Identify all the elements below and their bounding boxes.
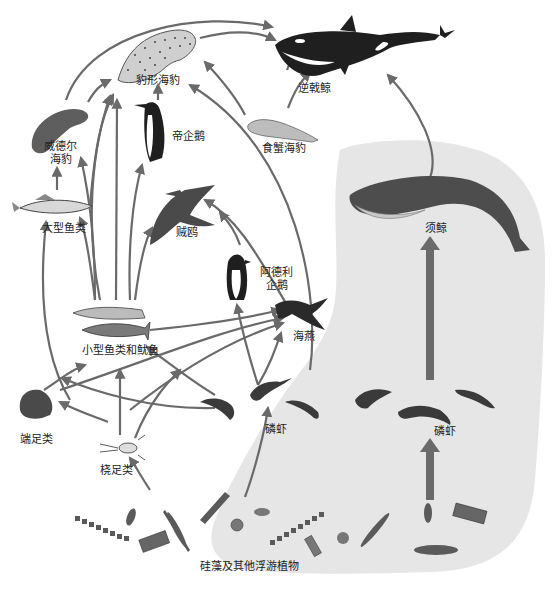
copepod-illustration [100,435,145,460]
label-petrel: 海燕 [293,330,315,343]
diatom-chain-left [75,516,129,541]
label-small-fish-and-squid: 小型鱼类和鱿鱼 [82,344,159,357]
petrel-illustration [275,298,328,330]
large-fish-illustration [12,194,92,213]
label-weddell-seal-line1: 威德尔 [44,140,77,153]
amphipod-illustration [20,390,53,419]
emperor-penguin-illustration [134,102,164,162]
label-emperor-penguin: 帝企鹅 [172,130,205,143]
label-krill-left: 磷虾 [265,423,287,436]
label-weddell-seal-line2: 海豹 [44,153,77,166]
label-adelie-penguin-line1: 阿德利 [260,266,293,279]
food-web-graphic [0,0,556,589]
label-leopard-seal: 豹形海豹 [136,74,180,87]
adelie-penguin-illustration [227,255,251,301]
label-copepods: 桡足类 [100,464,133,477]
label-krill-right: 磷虾 [434,425,456,438]
orca-illustration [275,15,455,76]
label-amphipods: 端足类 [20,433,53,446]
label-skua: 贼鸥 [176,226,198,239]
antarctic-food-web-diagram: 逆戟鲸 豹形海豹 帝企鹅 威德尔 海豹 食蟹海豹 大型鱼类 贼鸥 阿德利 企鹅 … [0,0,556,589]
label-adelie-penguin-line2: 企鹅 [260,279,293,292]
crabeater-seal-illustration [248,120,318,142]
label-crabeater-seal: 食蟹海豹 [262,142,306,155]
small-fish-and-squid-illustration [73,307,150,340]
label-adelie-penguin: 阿德利 企鹅 [260,266,293,292]
label-orca: 逆戟鲸 [298,82,331,95]
label-baleen-whale: 须鲸 [425,222,447,235]
label-weddell-seal: 威德尔 海豹 [44,140,77,166]
label-phytoplankton: 硅藻及其他浮游植物 [200,560,299,573]
label-large-fish: 大型鱼类 [42,222,86,235]
